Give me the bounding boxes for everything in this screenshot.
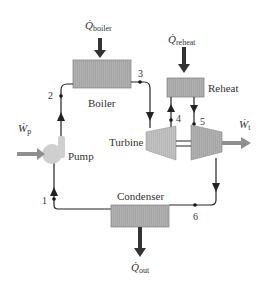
w-pump-arrow <box>17 148 45 160</box>
hp-turbine <box>146 126 176 160</box>
pump-label: Pump <box>68 151 94 162</box>
q-boiler-arrow <box>94 38 106 58</box>
state-6-label: 6 <box>193 212 198 222</box>
state-4-label: 4 <box>176 114 181 124</box>
turbine-shaft <box>176 141 191 146</box>
state-1-label: 1 <box>42 196 47 206</box>
reheat-label: Reheat <box>208 83 239 94</box>
state-5-label: 5 <box>200 117 205 127</box>
boiler-box <box>73 60 131 88</box>
q-out-arrow <box>134 227 146 257</box>
w-turbine-arrow <box>222 137 251 149</box>
w-pump-label: Ẇp <box>18 123 31 136</box>
q-out-label: Q̇out <box>131 262 149 275</box>
pump-shape <box>42 136 65 164</box>
q-boiler-label: Q̇boiler <box>85 20 112 33</box>
q-reheat-label: Q̇reheat <box>168 34 196 47</box>
rankine-reheat-diagram: Q̇boiler Boiler Q̇reheat Reheat Turbine … <box>0 0 264 283</box>
boiler-label: Boiler <box>88 98 116 109</box>
turbine-label: Turbine <box>109 137 143 148</box>
reheat-box <box>167 78 204 97</box>
state-2-label: 2 <box>48 91 53 101</box>
lp-turbine <box>191 125 222 160</box>
state-3-label: 3 <box>138 69 143 79</box>
q-reheat-arrow <box>178 47 190 73</box>
w-turbine-label: Ẇt <box>239 119 250 132</box>
condenser-box <box>111 205 169 227</box>
condenser-label: Condenser <box>117 191 164 202</box>
